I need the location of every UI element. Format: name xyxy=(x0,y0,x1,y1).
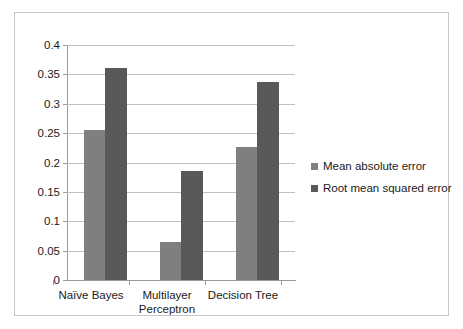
x-category-label-line: Decision Tree xyxy=(205,288,281,302)
y-tick-mark xyxy=(63,163,67,164)
bar xyxy=(181,171,203,280)
x-category-label-line: Naïve Bayes xyxy=(53,288,129,302)
y-tick-mark xyxy=(63,45,67,46)
x-tick-mark xyxy=(281,280,282,285)
y-tick-mark xyxy=(63,280,67,281)
y-tick-label: 0.05 xyxy=(38,245,60,257)
x-category-label-line: Perceptron xyxy=(129,302,205,316)
y-tick-mark xyxy=(63,251,67,252)
y-tick-mark xyxy=(63,133,67,134)
y-tick-label: 0.3 xyxy=(44,98,60,110)
y-tick-mark xyxy=(63,192,67,193)
bar xyxy=(236,147,258,280)
y-tick-label: 0.4 xyxy=(44,39,60,51)
legend-swatch-icon xyxy=(311,163,318,170)
x-tick-mark xyxy=(205,280,206,285)
chart-frame: 00.050.10.150.20.250.30.350.4 Naïve Baye… xyxy=(14,12,449,316)
y-tick-label: 0 xyxy=(54,274,60,286)
y-tick-label: 0.35 xyxy=(38,68,60,80)
legend-label: Root mean squared error xyxy=(323,182,451,194)
x-category-label: Naïve Bayes xyxy=(53,288,129,302)
legend-item[interactable]: Mean absolute error xyxy=(311,155,451,177)
bar xyxy=(160,242,182,280)
x-category-label: Decision Tree xyxy=(205,288,281,302)
bar xyxy=(105,68,127,280)
y-tick-mark xyxy=(63,74,67,75)
chart-legend: Mean absolute errorRoot mean squared err… xyxy=(311,155,451,199)
plot-area: 00.050.10.150.20.250.30.350.4 xyxy=(67,45,295,280)
chart-figure: 00.050.10.150.20.250.30.350.4 Naïve Baye… xyxy=(0,0,463,329)
legend-item[interactable]: Root mean squared error xyxy=(311,177,451,199)
gridline xyxy=(67,45,295,46)
gridline xyxy=(67,74,295,75)
y-tick-mark xyxy=(63,221,67,222)
y-tick-mark xyxy=(63,104,67,105)
legend-swatch-icon xyxy=(311,185,318,192)
x-tick-mark xyxy=(53,280,54,285)
legend-label: Mean absolute error xyxy=(323,160,426,172)
y-tick-label: 0.1 xyxy=(44,215,60,227)
x-category-label-line: Multilayer xyxy=(129,288,205,302)
x-category-label: MultilayerPerceptron xyxy=(129,288,205,316)
y-tick-label: 0.15 xyxy=(38,186,60,198)
x-axis-line xyxy=(67,280,296,281)
bar xyxy=(257,82,279,280)
y-tick-label: 0.2 xyxy=(44,157,60,169)
y-tick-label: 0.25 xyxy=(38,127,60,139)
bar xyxy=(84,130,106,280)
x-tick-mark xyxy=(129,280,130,285)
